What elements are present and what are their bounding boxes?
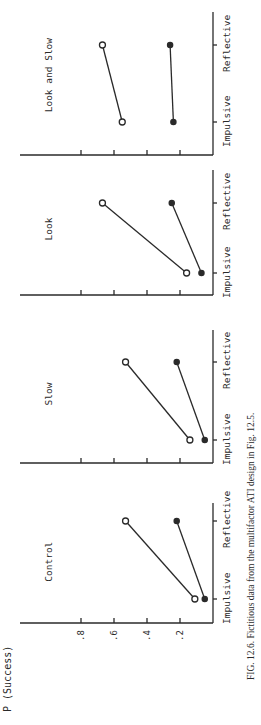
- category-label-impulsive: Impulsive: [221, 95, 232, 147]
- panel-title: Control: [43, 542, 54, 582]
- y-tick-label: .8: [76, 630, 86, 641]
- figure-caption: FIG. 12.6. Fictitious data from the mult…: [246, 413, 256, 680]
- series-line-open: [102, 203, 186, 273]
- series-line-filled: [177, 521, 205, 599]
- y-axis-label: P (Success): [2, 646, 13, 712]
- open-circle-marker: [187, 437, 193, 443]
- category-label-reflective: Reflective: [221, 173, 232, 230]
- open-circle-marker: [99, 42, 105, 48]
- panel-title: Slow: [43, 382, 54, 405]
- y-tick-label: .6: [109, 630, 119, 641]
- open-circle-marker: [99, 200, 105, 206]
- filled-circle-marker: [174, 359, 179, 364]
- panel-title: Look and Slow: [43, 38, 54, 113]
- y-tick-label: .4: [142, 630, 152, 641]
- category-label-impulsive: Impulsive: [221, 413, 232, 465]
- filled-circle-marker: [202, 437, 207, 442]
- figure: ImpulsiveReflectiveControlImpulsiveRefle…: [0, 0, 261, 725]
- category-label-reflective: Reflective: [221, 332, 232, 389]
- panel-control: ImpulsiveReflectiveControl: [20, 491, 232, 624]
- series-line-open: [126, 521, 195, 599]
- panel-look-and-slow: ImpulsiveReflectiveLook and Slow: [20, 12, 232, 155]
- filled-circle-marker: [199, 270, 204, 275]
- category-label-impulsive: Impulsive: [221, 572, 232, 624]
- filled-circle-marker: [174, 518, 179, 523]
- open-circle-marker: [119, 119, 125, 125]
- y-axis: .2.4.6.8: [76, 630, 185, 641]
- category-label-reflective: Reflective: [221, 15, 232, 72]
- panels: ImpulsiveReflectiveControlImpulsiveRefle…: [20, 12, 232, 624]
- panel-title: Look: [43, 217, 54, 240]
- open-circle-marker: [184, 270, 190, 276]
- category-label-impulsive: Impulsive: [221, 246, 232, 298]
- chart-canvas: ImpulsiveReflectiveControlImpulsiveRefle…: [0, 0, 261, 725]
- series-line-open: [102, 45, 122, 122]
- series-line-filled: [172, 203, 202, 273]
- open-circle-marker: [192, 596, 198, 602]
- filled-circle-marker: [202, 596, 207, 601]
- panel-look: ImpulsiveReflectiveLook: [20, 170, 232, 298]
- open-circle-marker: [123, 518, 129, 524]
- filled-circle-marker: [171, 119, 176, 124]
- series-line-filled: [170, 45, 173, 122]
- filled-circle-marker: [168, 42, 173, 47]
- y-tick-label: .2: [175, 630, 185, 641]
- open-circle-marker: [123, 359, 129, 365]
- filled-circle-marker: [169, 200, 174, 205]
- panel-slow: ImpulsiveReflectiveSlow: [20, 330, 232, 465]
- category-label-reflective: Reflective: [221, 491, 232, 548]
